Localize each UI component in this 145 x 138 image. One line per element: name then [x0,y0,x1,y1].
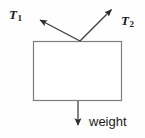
tension-right-arrow [80,10,112,42]
tension-right-label: T2 [121,14,134,29]
tension-right-symbol: T [121,13,129,28]
tension-left-symbol: T [9,7,17,22]
body-rectangle [34,42,122,101]
tension-left-arrow [40,20,80,41]
tension-right-subscript: 2 [129,19,134,29]
force-diagram: T1 T2 weight [0,0,145,138]
weight-label: weight [89,115,127,128]
tension-left-label: T1 [9,8,22,23]
tension-left-subscript: 1 [17,13,22,23]
